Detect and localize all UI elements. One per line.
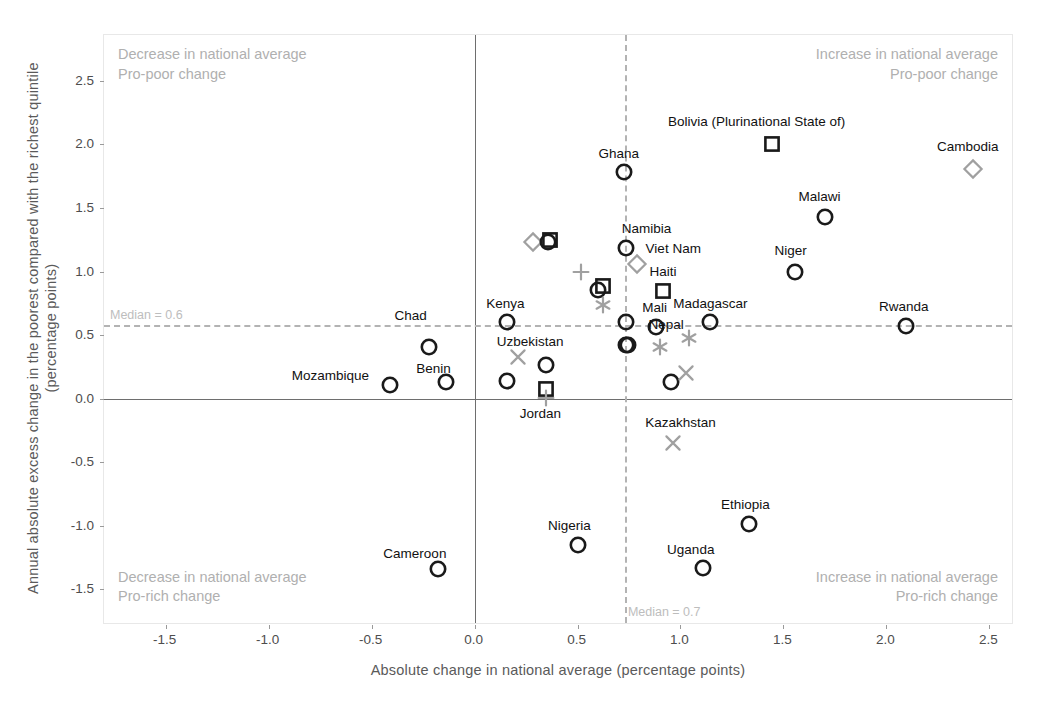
quadrant-annotation-bottom-right: Increase in national averagePro-rich cha… [816, 568, 998, 607]
quadrant-annotation-line1: Increase in national average [816, 568, 998, 588]
y-tick-mark [100, 589, 104, 590]
data-point-marker[interactable] [815, 207, 835, 227]
y-zero-reference-line [104, 399, 1012, 400]
data-point-label: Nepal [648, 317, 683, 332]
data-point-marker[interactable] [593, 276, 613, 296]
data-point-label: Ethiopia [721, 497, 770, 512]
data-point-label: Madagascar [673, 295, 747, 310]
quadrant-annotation-line1: Decrease in national average [118, 568, 307, 588]
data-point-label: Mozambique [292, 367, 369, 382]
x-zero-reference-line [475, 35, 476, 623]
x-tick-label: 0.0 [464, 632, 483, 647]
x-tick-label: -0.5 [359, 632, 382, 647]
y-tick-mark [100, 144, 104, 145]
data-point-marker[interactable] [739, 514, 759, 534]
y-tick-label: 0.5 [56, 327, 94, 342]
data-point-label: Haiti [649, 263, 676, 278]
data-point-marker[interactable] [497, 371, 517, 391]
data-point-marker[interactable] [785, 262, 805, 282]
quadrant-annotation-line2: Pro-poor change [118, 65, 307, 85]
y-median-label: Median = 0.6 [110, 308, 183, 322]
x-tick-label: 1.5 [773, 632, 792, 647]
data-point-label: Rwanda [879, 299, 929, 314]
data-point-marker[interactable] [536, 388, 556, 408]
data-point-label: Bolivia (Plurinational State of) [668, 114, 845, 129]
data-point-marker[interactable] [896, 316, 916, 336]
y-tick-mark [100, 526, 104, 527]
data-point-label: Uganda [667, 542, 714, 557]
y-tick-mark [100, 272, 104, 273]
data-point-label: Benin [416, 360, 451, 375]
x-axis-title: Absolute change in national average (per… [103, 662, 1013, 678]
data-point-marker[interactable] [962, 158, 984, 180]
plot-area: Median = 0.6Median = 0.7Decrease in nati… [103, 34, 1013, 624]
data-point-marker[interactable] [762, 134, 782, 154]
data-point-label: Jordan [520, 406, 561, 421]
data-point-marker[interactable] [508, 347, 528, 367]
y-axis-title: Annual absolute excess change in the poo… [24, 48, 60, 608]
data-point-marker[interactable] [436, 372, 456, 392]
data-point-label: Cameroon [383, 545, 446, 560]
data-point-label: Cambodia [937, 138, 999, 153]
data-point-marker[interactable] [540, 230, 560, 250]
quadrant-annotation-line1: Increase in national average [816, 45, 998, 65]
data-point-marker[interactable] [693, 558, 713, 578]
data-point-marker[interactable] [663, 433, 683, 453]
y-tick-label: -1.0 [56, 517, 94, 532]
data-point-label: Ghana [598, 145, 639, 160]
x-tick-label: 0.5 [567, 632, 586, 647]
y-tick-label: 0.0 [56, 390, 94, 405]
data-point-marker[interactable] [618, 335, 638, 355]
x-tick-mark [166, 625, 167, 629]
data-point-marker[interactable] [428, 559, 448, 579]
x-tick-label: -1.5 [153, 632, 176, 647]
y-tick-mark [100, 335, 104, 336]
data-point-marker[interactable] [593, 295, 613, 315]
scatter-chart-figure: Median = 0.6Median = 0.7Decrease in nati… [0, 0, 1047, 704]
data-point-label: Kazakhstan [645, 415, 716, 430]
y-median-reference-line [104, 325, 1012, 327]
y-tick-mark [100, 81, 104, 82]
data-point-marker[interactable] [419, 337, 439, 357]
data-point-label: Niger [774, 242, 806, 257]
x-tick-mark [680, 625, 681, 629]
data-point-label: Namibia [622, 221, 672, 236]
x-tick-mark [886, 625, 887, 629]
data-point-marker[interactable] [653, 281, 673, 301]
data-point-marker[interactable] [568, 535, 588, 555]
y-tick-label: 1.5 [56, 199, 94, 214]
x-tick-mark [372, 625, 373, 629]
data-point-label: Uzbekistan [497, 333, 564, 348]
data-point-label: Chad [395, 308, 427, 323]
data-point-marker[interactable] [700, 312, 720, 332]
data-point-label: Mali [642, 300, 667, 315]
data-point-label: Malawi [798, 189, 840, 204]
quadrant-annotation-bottom-left: Decrease in national averagePro-rich cha… [118, 568, 307, 607]
data-point-marker[interactable] [571, 262, 591, 282]
quadrant-annotation-line1: Decrease in national average [118, 45, 307, 65]
data-point-marker[interactable] [497, 312, 517, 332]
x-tick-mark [989, 625, 990, 629]
y-tick-mark [100, 208, 104, 209]
y-tick-label: 1.0 [56, 263, 94, 278]
y-tick-mark [100, 399, 104, 400]
x-tick-mark [578, 625, 579, 629]
quadrant-annotation-line2: Pro-rich change [118, 587, 307, 607]
data-point-marker[interactable] [626, 253, 648, 275]
x-tick-label: 2.0 [876, 632, 895, 647]
x-tick-mark [783, 625, 784, 629]
quadrant-annotation-top-right: Increase in national averagePro-poor cha… [816, 45, 998, 84]
x-tick-label: -1.0 [256, 632, 279, 647]
x-median-label: Median = 0.7 [628, 605, 701, 619]
y-tick-label: -0.5 [56, 454, 94, 469]
data-point-label: Viet Nam [646, 240, 701, 255]
data-point-marker[interactable] [536, 355, 556, 375]
data-point-label: Kenya [486, 295, 524, 310]
x-tick-label: 2.5 [979, 632, 998, 647]
x-tick-mark [475, 625, 476, 629]
data-point-marker[interactable] [650, 337, 670, 357]
data-point-marker[interactable] [676, 363, 696, 383]
data-point-marker[interactable] [616, 312, 636, 332]
data-point-marker[interactable] [614, 162, 634, 182]
data-point-marker[interactable] [380, 375, 400, 395]
